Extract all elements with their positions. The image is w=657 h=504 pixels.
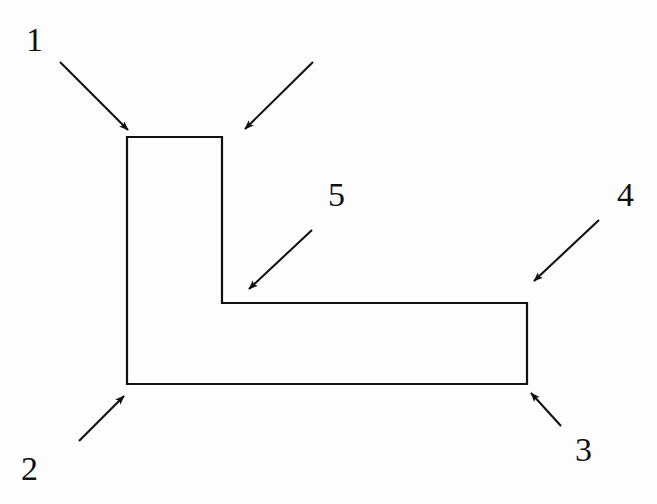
callout-arrow-1 [60,62,128,130]
callout-arrow-3 [531,393,561,426]
l-shape-outline [127,137,527,384]
callout-label-1: 1 [26,23,43,57]
callout-label-5: 5 [328,178,345,212]
callout-label-4: 4 [617,178,634,212]
line-drawing-svg [0,0,657,504]
callout-label-3: 3 [575,433,592,467]
callout-arrow-2 [79,396,124,441]
callout-label-2: 2 [21,452,38,486]
callout-arrow-1b [245,62,313,129]
callout-arrow-4 [534,220,599,281]
callout-arrow-5 [249,230,312,289]
figure-canvas: 1 2 3 4 5 [0,0,657,504]
